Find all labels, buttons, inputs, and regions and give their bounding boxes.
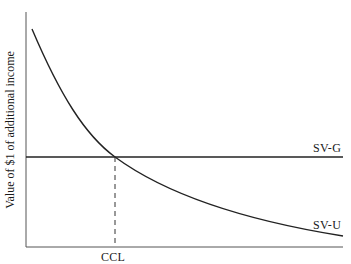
sv-g-label: SV-G <box>313 141 341 156</box>
sv-u-label: SV-U <box>313 218 341 233</box>
sv-u-curve <box>32 29 343 236</box>
ccl-label: CCL <box>101 250 125 264</box>
chart-canvas <box>0 0 351 264</box>
y-axis-label: Value of $1 of additional income <box>3 51 18 209</box>
